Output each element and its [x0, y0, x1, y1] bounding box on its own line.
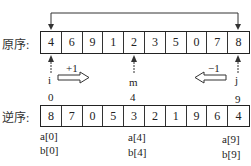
array-cell: 2 — [124, 32, 145, 53]
diagram-lines — [0, 0, 251, 166]
annotation-a9: a[9] — [222, 134, 240, 145]
array-cell: 3 — [124, 106, 145, 126]
array-cell: 9 — [187, 106, 208, 126]
array-cell: 4 — [228, 106, 249, 126]
arrowhead-down-left — [48, 24, 54, 30]
array-cell: 1 — [103, 32, 124, 53]
array-cell: 8 — [228, 32, 249, 53]
array-cell: 0 — [83, 106, 104, 126]
index-first: 0 — [48, 92, 54, 103]
pointer-i-label: i — [48, 75, 51, 86]
arrow-up-m — [131, 55, 137, 62]
annotation-a4: a[4] — [128, 132, 146, 143]
annotation-b4: b[4] — [128, 147, 146, 158]
swap-connector — [51, 13, 238, 27]
array-cell: 9 — [83, 32, 104, 53]
arrowhead-down-right — [235, 24, 241, 30]
array-cell: 0 — [187, 32, 208, 53]
array-cell: 7 — [62, 106, 83, 126]
step-minus-label: −1 — [208, 63, 220, 74]
array-cell: 8 — [41, 106, 62, 126]
arrow-up-i — [48, 55, 54, 62]
pointer-m-label: m — [129, 77, 138, 88]
reversed-row-label: 逆序: — [2, 108, 29, 126]
original-array: 4 6 9 1 2 3 5 0 7 8 — [40, 31, 250, 54]
step-plus-label: +1 — [66, 63, 78, 74]
original-row-label: 原序: — [2, 35, 29, 53]
pointer-j-label: j — [235, 75, 238, 86]
annotation-a0: a[0] — [40, 131, 58, 142]
arrow-up-j — [235, 55, 241, 62]
annotation-b9: b[9] — [222, 149, 240, 160]
array-cell: 5 — [103, 106, 124, 126]
array-cell: 3 — [145, 32, 166, 53]
array-cell: 7 — [207, 32, 228, 53]
index-last: 9 — [235, 94, 241, 105]
array-cell: 2 — [145, 106, 166, 126]
array-cell: 6 — [207, 106, 228, 126]
annotation-b0: b[0] — [40, 145, 58, 156]
reversed-array: 8 7 0 5 3 2 1 9 6 4 — [40, 105, 250, 127]
index-middle: 4 — [130, 92, 136, 103]
array-cell: 1 — [166, 106, 187, 126]
array-cell: 6 — [62, 32, 83, 53]
array-cell: 5 — [166, 32, 187, 53]
array-cell: 4 — [41, 32, 62, 53]
